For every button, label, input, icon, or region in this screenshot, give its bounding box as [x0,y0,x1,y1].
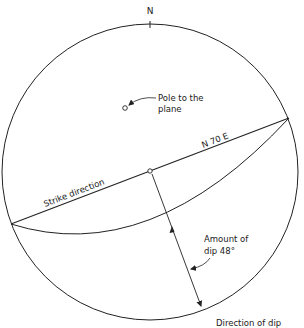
dip-direction-label: Direction of dip [216,318,281,328]
dip-arc-arrowhead [170,226,175,233]
dip-amount-label-line1: Amount of [204,234,249,244]
great-circle-arc [11,118,289,234]
pole-label-line1: Pole to the [158,93,204,103]
pole-point [123,106,128,111]
dip-direction-line [152,174,201,306]
strike-direction-label: Strike direction [42,177,106,209]
strike-bearing-label: N 70 E [200,131,230,150]
pole-label-line2: plane [158,104,182,114]
dip-amount-pointer-arrow [191,258,210,269]
dip-amount-label-line2: dip 48° [204,246,235,256]
north-label: N [147,6,154,16]
stereonet-diagram: N Pole to the plane N 70 E Strike direct… [0,0,304,328]
center-point [148,169,152,173]
pole-pointer-arrow [129,98,156,105]
